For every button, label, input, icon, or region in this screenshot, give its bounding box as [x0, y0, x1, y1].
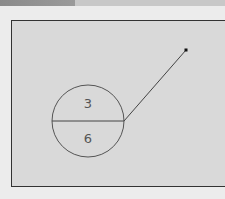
top-number-label: 3 — [84, 96, 92, 111]
bottom-number-label: 6 — [84, 131, 92, 146]
diagram-canvas: 3 6 — [0, 0, 225, 199]
pointer-dot-icon — [185, 49, 188, 52]
pointer-line — [124, 50, 186, 121]
